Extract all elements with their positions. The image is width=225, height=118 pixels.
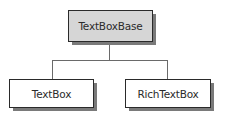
node-textbox: TextBox	[9, 79, 94, 108]
node-richtextbox: RichTextBox	[125, 79, 211, 108]
connector-right-drop	[167, 60, 168, 79]
node-textboxbase: TextBoxBase	[68, 10, 153, 42]
connector-left-drop	[52, 60, 53, 79]
node-label: RichTextBox	[137, 88, 198, 100]
node-label: TextBoxBase	[78, 20, 142, 32]
node-label: TextBox	[32, 88, 71, 100]
connector-horizontal	[52, 60, 168, 61]
